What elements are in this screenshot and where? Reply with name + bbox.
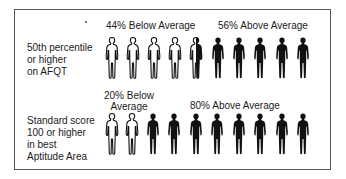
person-filled-icon bbox=[252, 112, 268, 156]
person-filled-icon bbox=[252, 36, 268, 80]
row1-label-line: or higher bbox=[27, 54, 93, 66]
person-outline-icon bbox=[104, 36, 120, 80]
person-filled-icon bbox=[231, 36, 247, 80]
row2-below-caption-line: 20% Below bbox=[101, 90, 157, 101]
person-filled-icon bbox=[145, 112, 161, 156]
row1-above-caption: 56% Above Average bbox=[218, 20, 308, 31]
row2-label: Standard score 100 or higher in best Apt… bbox=[27, 115, 95, 163]
person-outline-icon bbox=[124, 112, 140, 156]
person-outline-icon bbox=[167, 36, 183, 80]
row2-below-caption-line: Average bbox=[101, 101, 157, 112]
person-filled-icon bbox=[166, 112, 182, 156]
person-filled-icon bbox=[274, 112, 290, 156]
person-filled-icon bbox=[209, 112, 225, 156]
person-filled-icon bbox=[295, 36, 311, 80]
row2-above-caption: 80% Above Average bbox=[190, 100, 280, 111]
person-filled-icon bbox=[231, 112, 247, 156]
person-filled-icon bbox=[295, 112, 311, 156]
person-outline-icon bbox=[146, 36, 162, 80]
row2-label-line: Standard score bbox=[27, 115, 95, 127]
row1-label-line: 50th percentile bbox=[27, 42, 93, 54]
row2-label-line: 100 or higher bbox=[27, 127, 95, 139]
person-half-filled-icon bbox=[188, 36, 204, 80]
row2-label-line: Aptitude Area bbox=[27, 151, 95, 163]
row2-label-line: in best bbox=[27, 139, 95, 151]
row1-label: 50th percentile or higher on AFQT bbox=[27, 42, 93, 78]
person-filled-icon bbox=[188, 112, 204, 156]
person-outline-icon bbox=[104, 112, 120, 156]
row2-below-caption: 20% Below Average bbox=[101, 90, 157, 112]
person-filled-icon bbox=[274, 36, 290, 80]
person-filled-icon bbox=[210, 36, 226, 80]
row1-below-caption: 44% Below Average bbox=[106, 20, 195, 31]
asterisk-mark bbox=[85, 21, 87, 23]
row1-label-line: on AFQT bbox=[27, 66, 93, 78]
person-outline-icon bbox=[125, 36, 141, 80]
